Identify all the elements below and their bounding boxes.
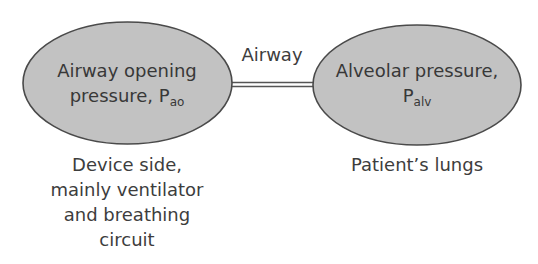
node-line-2: Palv xyxy=(317,83,517,108)
node-line-1: Alveolar pressure, xyxy=(317,58,517,83)
caption-line: and breathing xyxy=(27,202,227,227)
caption-line: mainly ventilator xyxy=(27,177,227,202)
pressure-subscript: alv xyxy=(414,95,432,109)
pressure-symbol: pressure, P xyxy=(70,85,170,106)
caption-line: Patient’s lungs xyxy=(317,152,517,177)
alveolar-pressure-text: Alveolar pressure, Palv xyxy=(317,58,517,108)
airway-label: Airway xyxy=(222,42,322,67)
airway-connector xyxy=(228,83,317,87)
device-side-caption: Device side, mainly ventilator and breat… xyxy=(27,152,227,252)
node-line-2: pressure, Pao xyxy=(27,83,227,108)
airway-opening-pressure-text: Airway opening pressure, Pao xyxy=(27,58,227,108)
pressure-symbol: P xyxy=(403,85,414,106)
pressure-subscript: ao xyxy=(170,95,185,109)
patient-lungs-caption: Patient’s lungs xyxy=(317,152,517,177)
node-line-1: Airway opening xyxy=(27,58,227,83)
caption-line: Device side, xyxy=(27,152,227,177)
caption-line: circuit xyxy=(27,227,227,252)
